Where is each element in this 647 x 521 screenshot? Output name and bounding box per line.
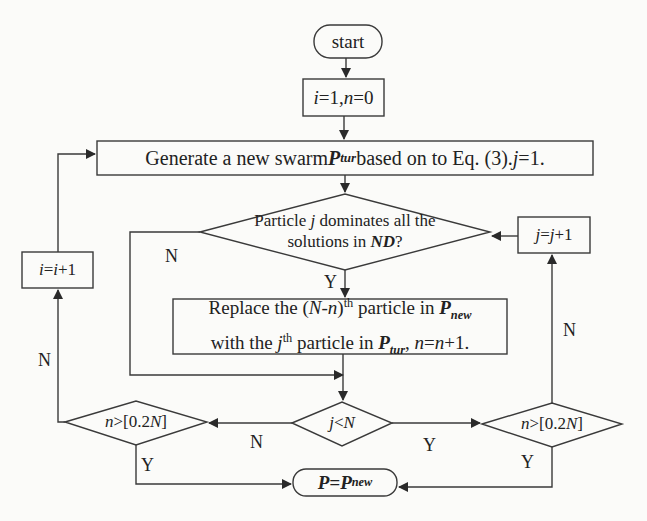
replace-sup-th-2: th <box>283 331 293 345</box>
replace-text: Replace the ( <box>209 298 309 319</box>
replace-text-4: particle in <box>292 332 378 353</box>
init-text: =1, <box>319 87 344 109</box>
init-text-2: =0 <box>353 87 373 109</box>
end-node: P=Pnew <box>293 469 397 496</box>
generate-sub-tur: tur <box>340 150 356 166</box>
replace-line-1: Replace the (N-n)th particle in Pnew <box>209 292 472 326</box>
ngl-var-n-cap: N <box>150 412 161 432</box>
replace-var-n-3: n <box>435 332 445 353</box>
start-label: start <box>332 31 365 53</box>
dominates-line-2: solutions in ND? <box>287 231 402 252</box>
replace-line-2: with the jth particle in Ptur, n=n+1. <box>211 327 469 361</box>
j-less-n-decision: j<N <box>312 411 372 435</box>
dominates-var-nd: ND <box>371 232 396 251</box>
edge-label-jn-no: N <box>250 432 263 453</box>
increment-j-node: j=j+1 <box>518 217 590 253</box>
replace-var-n-cap: N <box>309 298 322 319</box>
edge-label-right-no: N <box>563 320 576 341</box>
ngl-text: >[0.2 <box>113 412 150 432</box>
jn-var-n: N <box>343 413 354 433</box>
dominates-line-1: Particle j dominates all the <box>254 210 435 231</box>
dominates-text-3: solutions in <box>287 232 370 251</box>
n-gt-left-decision: n>[0.2N] <box>86 410 186 434</box>
n-gt-right-decision: n>[0.2N] <box>502 412 602 436</box>
replace-var-p-2: P <box>378 332 390 353</box>
ngr-text: >[0.2 <box>529 414 566 434</box>
end-eq: = <box>329 472 340 494</box>
init-var-n: n <box>344 87 354 109</box>
ngr-var-n: n <box>521 414 530 434</box>
replace-eq: = <box>424 332 435 353</box>
generate-text-3: =1. <box>518 147 544 170</box>
dominates-qmark: ? <box>395 232 403 251</box>
incj-plus: +1 <box>554 225 572 245</box>
generate-text-2: based on to Eq. (3). <box>356 147 513 170</box>
init-node: i=1,n=0 <box>303 79 384 116</box>
dominates-decision: Particle j dominates all the solutions i… <box>220 206 470 256</box>
generate-var-p: P <box>328 147 340 170</box>
replace-sub-new: new <box>451 309 472 323</box>
edge-label-dominates-no: N <box>165 246 178 267</box>
edge-label-left-no: N <box>38 350 51 371</box>
replace-sup-th: th <box>344 296 354 310</box>
dominates-text: Particle <box>254 211 310 230</box>
end-var-p: P <box>318 472 330 494</box>
edge-label-right-yes: Y <box>521 452 534 473</box>
replace-var-n-2: n <box>414 332 424 353</box>
inci-plus: +1 <box>58 260 76 280</box>
replace-sub-tur: tur <box>390 343 405 357</box>
ngl-bracket: ] <box>161 412 167 432</box>
replace-var-p: P <box>439 298 451 319</box>
generate-text: Generate a new swarm <box>145 147 328 170</box>
end-sub-new: new <box>352 475 373 490</box>
edge-label-dominates-yes: Y <box>324 272 337 293</box>
dominates-text-2: dominates all the <box>315 211 435 230</box>
replace-node: Replace the (N-n)th particle in Pnew wit… <box>173 299 507 354</box>
start-node: start <box>314 25 382 58</box>
incj-eq: = <box>540 225 550 245</box>
ngl-var-n: n <box>105 412 114 432</box>
end-var-p-2: P <box>340 472 352 494</box>
generate-node: Generate a new swarm Ptur based on to Eq… <box>97 141 593 175</box>
edge-label-left-yes: Y <box>141 455 154 476</box>
replace-text-3: with the <box>211 332 278 353</box>
ngr-bracket: ] <box>577 414 583 434</box>
ngr-var-n-cap: N <box>566 414 577 434</box>
replace-text-2: particle in <box>353 298 439 319</box>
replace-var-n: n <box>328 298 338 319</box>
edge-label-jn-yes: Y <box>423 435 436 456</box>
inci-eq: = <box>44 260 54 280</box>
replace-plus: +1. <box>444 332 469 353</box>
increment-i-node: i=i+1 <box>22 252 93 288</box>
